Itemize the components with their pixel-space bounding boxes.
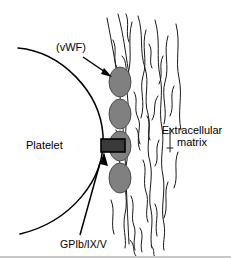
gpib-label: GPIb/IX/V: [60, 238, 107, 250]
extracellular-matrix-label: Extracellular matrix: [157, 124, 227, 148]
vwf-multimer-chain: [109, 67, 131, 193]
gpib-receptor-bar: [101, 139, 125, 152]
vwf-multimer: [109, 67, 131, 97]
vwf-multimer: [109, 99, 131, 129]
vwf-multimer: [109, 163, 131, 193]
ecm-label-line2: matrix: [157, 136, 227, 148]
ecm-label-line1: Extracellular: [162, 124, 223, 136]
figure-panel: (vWF) Platelet Extracellular matrix GPIb…: [0, 0, 231, 258]
platelet-label: Platelet: [26, 139, 63, 151]
vwf-label: (vWF): [56, 41, 86, 53]
vwf-leader-arrow: [83, 57, 112, 77]
